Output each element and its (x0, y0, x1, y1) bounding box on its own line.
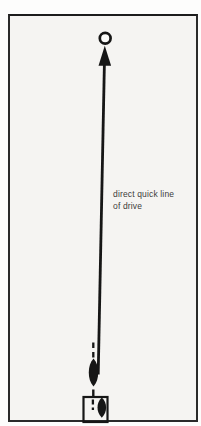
diagram-canvas (0, 0, 201, 426)
jack-circle-icon (100, 33, 111, 44)
caption-line-1: direct quick line (113, 189, 183, 201)
arrowhead-icon (99, 46, 112, 66)
caption-direct-quick-line-of-drive: direct quick line of drive (113, 189, 183, 212)
caption-line-2: of drive (113, 201, 183, 213)
bowl-delivered-icon (89, 359, 98, 387)
figure-drive-line-diagram: direct quick line of drive (0, 0, 201, 426)
drive-arrow-shaft (98, 64, 104, 375)
bowl-on-mat-icon (98, 398, 107, 418)
